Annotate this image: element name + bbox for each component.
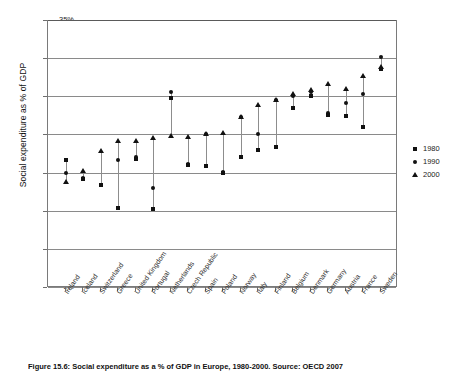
triangle-marker-icon (203, 131, 209, 136)
square-marker-icon (256, 148, 260, 152)
triangle-marker-icon (290, 91, 296, 96)
range-connector (188, 137, 189, 165)
data-column-finland (276, 20, 277, 286)
range-connector (153, 138, 154, 209)
square-marker-icon (239, 155, 243, 159)
range-connector (241, 117, 242, 157)
triangle-marker-icon (115, 138, 121, 143)
circle-marker-icon (361, 92, 365, 96)
circle-marker-icon (151, 186, 155, 190)
triangle-marker-icon (325, 81, 331, 86)
triangle-marker-icon (255, 102, 261, 107)
triangle-marker-icon (98, 148, 104, 153)
legend-label: 1980 (423, 144, 440, 153)
triangle-marker-icon (343, 86, 349, 91)
circle-marker-icon (134, 155, 138, 159)
data-column-poland (223, 20, 224, 286)
square-marker-icon (411, 147, 419, 151)
range-connector (223, 133, 224, 173)
square-marker-icon (204, 164, 208, 168)
data-column-austria (346, 20, 347, 286)
circle-marker-icon (256, 132, 260, 136)
legend-item-1980[interactable]: 1980 (411, 142, 471, 155)
triangle-marker-icon (378, 64, 384, 69)
data-column-norway (241, 20, 242, 286)
data-column-sweden (381, 20, 382, 286)
legend-label: 1990 (423, 157, 440, 166)
circle-marker-icon (64, 171, 68, 175)
data-column-france (363, 20, 364, 286)
data-column-belgium (293, 20, 294, 286)
square-marker-icon (274, 145, 278, 149)
triangle-marker-icon (308, 87, 314, 92)
square-marker-icon (169, 96, 173, 100)
legend-item-2000[interactable]: 2000 (411, 168, 471, 181)
y-tick-mark (43, 287, 47, 288)
circle-marker-icon (344, 101, 348, 105)
circle-marker-icon (99, 183, 103, 187)
data-column-netherlands (171, 20, 172, 286)
square-marker-icon (64, 158, 68, 162)
range-connector (276, 100, 277, 147)
data-column-spain (206, 20, 207, 286)
data-column-ireland (66, 20, 67, 286)
data-column-united-kingdom (136, 20, 137, 286)
triangle-marker-icon (273, 97, 279, 102)
circle-marker-icon (379, 55, 383, 59)
data-column-portugal (153, 20, 154, 286)
plot-area (47, 20, 397, 287)
data-column-switzerland (101, 20, 102, 286)
y-axis-title: Social expenditure as % of GDP (18, 10, 28, 240)
triangle-marker-icon (411, 172, 419, 177)
square-marker-icon (309, 94, 313, 98)
triangle-marker-icon (185, 134, 191, 139)
square-marker-icon (361, 125, 365, 129)
legend-label: 2000 (423, 170, 440, 179)
triangle-marker-icon (150, 135, 156, 140)
data-column-denmark (311, 20, 312, 286)
data-column-czech-republic (188, 20, 189, 286)
data-column-italy (258, 20, 259, 286)
circle-marker-icon (81, 176, 85, 180)
triangle-marker-icon (63, 179, 69, 184)
range-connector (258, 105, 259, 149)
data-column-iceland (83, 20, 84, 286)
legend: 1980 1990 2000 (411, 142, 471, 181)
triangle-marker-icon (360, 73, 366, 78)
circle-marker-icon (169, 90, 173, 94)
figure-caption: Figure 15.6: Social expenditure as a % o… (28, 362, 458, 373)
circle-marker-icon (411, 160, 419, 164)
range-connector (101, 151, 102, 185)
legend-item-1990[interactable]: 1990 (411, 155, 471, 168)
triangle-marker-icon (80, 168, 86, 173)
triangle-marker-icon (238, 114, 244, 119)
triangle-marker-icon (220, 130, 226, 135)
square-marker-icon (291, 106, 295, 110)
data-column-greece (118, 20, 119, 286)
range-connector (363, 76, 364, 126)
data-column-germany (328, 20, 329, 286)
triangle-marker-icon (133, 138, 139, 143)
figure-container: Social expenditure as % of GDP 0%5%10%15… (0, 0, 475, 373)
triangle-marker-icon (168, 133, 174, 138)
range-connector (118, 141, 119, 209)
circle-marker-icon (221, 170, 225, 174)
circle-marker-icon (116, 158, 120, 162)
range-connector (206, 134, 207, 167)
square-marker-icon (116, 206, 120, 210)
square-marker-icon (344, 114, 348, 118)
square-marker-icon (151, 207, 155, 211)
